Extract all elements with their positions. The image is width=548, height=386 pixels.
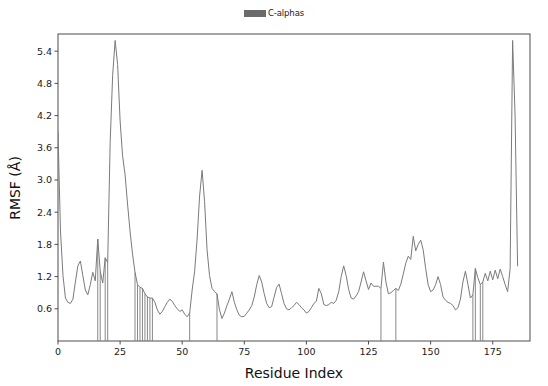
x-tick-label: 150	[422, 346, 440, 357]
x-tick-label: 75	[238, 346, 250, 357]
plot-frame	[58, 34, 530, 341]
x-axis-title: Residue Index	[245, 365, 343, 381]
x-tick-label: 175	[484, 346, 502, 357]
x-tick-label: 50	[176, 346, 188, 357]
y-axis-title: RMSF (Å)	[7, 156, 23, 220]
y-tick-label: 4.2	[37, 110, 52, 121]
x-tick-label: 0	[55, 346, 61, 357]
y-tick-label: 0.6	[37, 303, 52, 314]
x-tick-label: 125	[359, 346, 377, 357]
y-tick-label: 1.2	[37, 271, 52, 282]
y-tick-label: 2.4	[37, 207, 52, 218]
x-tick-label: 100	[297, 346, 315, 357]
y-tick-label: 1.8	[37, 239, 52, 250]
y-tick-label: 3.6	[37, 142, 52, 153]
y-tick-label: 3.0	[37, 174, 52, 185]
x-tick-label: 25	[114, 346, 126, 357]
plot-area: 0255075100125150175 0.61.21.82.43.03.64.…	[0, 0, 548, 386]
y-tick-label: 5.4	[37, 46, 52, 57]
rmsf-chart-figure: C-alphas 0255075100125150175 0.61.21.82.…	[0, 0, 548, 386]
y-axis-ticks: 0.61.21.82.43.03.64.24.85.4	[37, 46, 58, 315]
y-tick-label: 4.8	[37, 78, 52, 89]
x-axis-ticks: 0255075100125150175	[55, 341, 502, 357]
